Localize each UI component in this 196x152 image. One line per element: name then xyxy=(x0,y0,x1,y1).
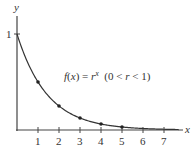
x-tick-label-5: 5 xyxy=(119,135,125,147)
exponential-decay-chart: 1 y x 1234567 f(x) = rx (0 < r < 1) xyxy=(0,0,196,152)
x-tick-label-7: 7 xyxy=(161,135,167,147)
x-tick-label-4: 4 xyxy=(98,135,104,147)
data-point xyxy=(36,80,40,84)
x-axis-label: x xyxy=(184,123,190,135)
function-annotation: f(x) = rx (0 < r < 1) xyxy=(64,69,151,83)
decay-curve xyxy=(17,34,179,130)
data-point xyxy=(99,122,103,126)
data-points xyxy=(36,80,124,129)
x-tick-label-3: 3 xyxy=(77,135,83,147)
x-tick-label-1: 1 xyxy=(35,135,41,147)
data-point xyxy=(120,125,124,129)
y-axis-label: y xyxy=(13,1,19,13)
data-point xyxy=(57,104,61,108)
y-tick-label-1: 1 xyxy=(6,28,12,40)
data-point xyxy=(78,116,82,120)
x-tick-label-6: 6 xyxy=(140,135,146,147)
x-tick-label-2: 2 xyxy=(56,135,62,147)
